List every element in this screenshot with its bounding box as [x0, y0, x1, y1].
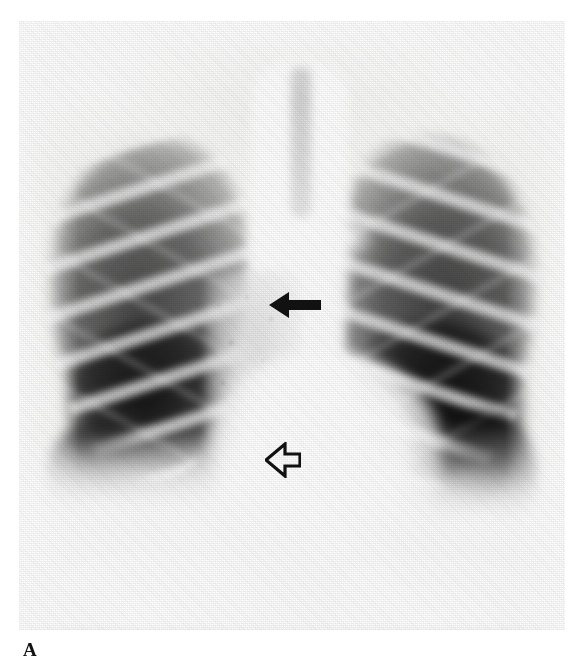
- chest-radiograph-image: [19, 21, 565, 630]
- figure-label: A: [23, 640, 37, 660]
- film-grain-overlay-diagonal: [19, 21, 565, 630]
- figure-panel: A: [0, 0, 574, 663]
- open-arrow-annotation-icon: [265, 442, 301, 478]
- solid-arrow-annotation-icon: [269, 291, 321, 319]
